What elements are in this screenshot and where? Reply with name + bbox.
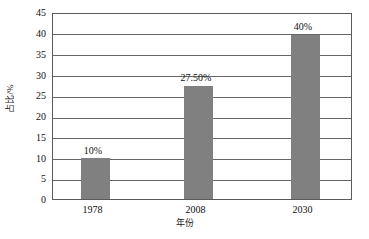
x-tick-label-1978: 1978 — [64, 204, 121, 215]
bar-2030[interactable] — [291, 35, 320, 199]
y-tick-label: 20 — [4, 112, 46, 122]
y-tick-label: 15 — [4, 133, 46, 143]
y-tick-label: 30 — [4, 71, 46, 81]
y-tick-label: 10 — [4, 154, 46, 164]
y-tick-label: 35 — [4, 50, 46, 60]
y-tick-label: 5 — [4, 174, 46, 184]
x-tick-label-2030: 2030 — [274, 204, 331, 215]
bar-value-label: 10% — [62, 145, 124, 156]
y-tick-label: 40 — [4, 29, 46, 39]
bar-1978[interactable] — [81, 158, 110, 199]
bar-chart: 占比/% 45 40 35 30 25 20 15 10 5 0 10% 27.… — [0, 0, 369, 239]
y-tick-label: 0 — [4, 195, 46, 205]
bar-value-label: 27.50% — [165, 72, 227, 83]
bar-value-label: 40% — [272, 21, 334, 32]
x-tick-label-2008: 2008 — [167, 204, 224, 215]
y-tick-label: 45 — [4, 8, 46, 18]
plot-area — [52, 13, 352, 200]
y-tick-label: 25 — [4, 91, 46, 101]
bar-2008[interactable] — [184, 86, 213, 199]
x-axis-title: 年份 — [0, 218, 369, 228]
